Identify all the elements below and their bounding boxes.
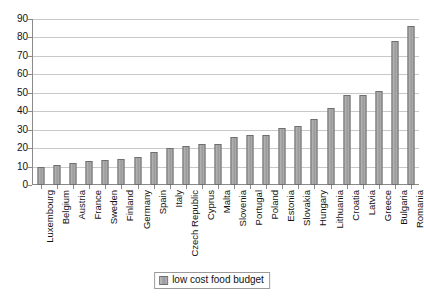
x-tick-label: Latvia — [367, 190, 377, 215]
x-tick-mark — [105, 185, 106, 189]
y-tick-label: 60 — [4, 69, 28, 79]
bar-slot — [210, 19, 226, 185]
bar[interactable] — [86, 161, 93, 185]
x-tick-label: Estonia — [286, 190, 296, 222]
x-tick-label: Hungary — [318, 190, 328, 226]
x-tick-mark — [186, 185, 187, 189]
x-tick-label: Belgium — [61, 190, 71, 224]
x-tick-label: Malta — [222, 190, 232, 213]
x-tick-mark — [154, 185, 155, 189]
x-tick-label: Greece — [383, 190, 393, 221]
bar[interactable] — [166, 148, 173, 185]
bar[interactable] — [343, 95, 350, 185]
x-tick-mark — [298, 185, 299, 189]
x-tick-mark — [314, 185, 315, 189]
x-tick-label: Lithuania — [335, 190, 345, 229]
x-tick-mark — [282, 185, 283, 189]
x-tick-mark — [218, 185, 219, 189]
bar[interactable] — [231, 137, 238, 185]
bar[interactable] — [70, 163, 77, 185]
x-tick-mark — [363, 185, 364, 189]
y-tick-label: 80 — [4, 32, 28, 42]
bars-layer — [33, 19, 419, 185]
bar-slot — [97, 19, 113, 185]
y-tick-label: 30 — [4, 125, 28, 135]
bar-slot — [387, 19, 403, 185]
bar-slot — [226, 19, 242, 185]
bar[interactable] — [118, 159, 125, 185]
x-tick-mark — [379, 185, 380, 189]
y-tick-label: 50 — [4, 88, 28, 98]
x-tick-mark — [73, 185, 74, 189]
x-tick-mark — [138, 185, 139, 189]
bar[interactable] — [407, 26, 414, 185]
bar-slot — [113, 19, 129, 185]
x-tick-label: Sweden — [109, 190, 119, 224]
x-tick-mark — [250, 185, 251, 189]
chart-legend: low cost food budget — [154, 272, 270, 289]
bar-slot — [146, 19, 162, 185]
y-tick-label: 90 — [4, 14, 28, 24]
x-tick-label: Cyprus — [206, 190, 216, 220]
bar[interactable] — [102, 160, 109, 185]
bar[interactable] — [150, 152, 157, 185]
y-tick-label: 20 — [4, 143, 28, 153]
y-tick-label: 10 — [4, 162, 28, 172]
bar[interactable] — [54, 165, 61, 185]
x-tick-label: Slovenia — [238, 190, 248, 226]
x-tick-label: Czech Republic — [190, 190, 200, 257]
y-tick-mark — [28, 185, 32, 186]
x-tick-label: France — [93, 190, 103, 220]
x-tick-label: Portugal — [254, 190, 264, 225]
x-tick-label: Spain — [158, 190, 168, 214]
x-tick-label: Slovakia — [302, 190, 312, 226]
x-tick-label: Croatia — [351, 190, 361, 221]
bar[interactable] — [391, 41, 398, 185]
bar-slot — [178, 19, 194, 185]
x-tick-label: Austria — [77, 190, 87, 220]
bar[interactable] — [359, 95, 366, 185]
legend-label: low cost food budget — [172, 275, 264, 285]
x-tick-label: Bulgaria — [399, 190, 409, 225]
x-tick-mark — [395, 185, 396, 189]
x-tick-mark — [347, 185, 348, 189]
bar[interactable] — [198, 144, 205, 185]
bar[interactable] — [279, 128, 286, 185]
x-tick-label: Poland — [270, 190, 280, 220]
bar-slot — [290, 19, 306, 185]
bar[interactable] — [311, 119, 318, 185]
bar-slot — [355, 19, 371, 185]
y-tick-label: 40 — [4, 106, 28, 116]
x-tick-mark — [234, 185, 235, 189]
x-tick-mark — [89, 185, 90, 189]
bar[interactable] — [247, 135, 254, 185]
x-tick-label: Romania — [415, 190, 424, 228]
bar-slot — [162, 19, 178, 185]
bar[interactable] — [214, 144, 221, 186]
bar[interactable] — [327, 108, 334, 185]
bar[interactable] — [182, 146, 189, 185]
x-tick-mark — [41, 185, 42, 189]
bar-slot — [194, 19, 210, 185]
bar-slot — [403, 19, 419, 185]
bar[interactable] — [375, 91, 382, 185]
x-axis-labels: LuxembourgBelgiumAustriaFranceSwedenFinl… — [33, 190, 419, 260]
bar[interactable] — [263, 135, 270, 185]
bar[interactable] — [134, 157, 141, 185]
x-tick-mark — [170, 185, 171, 189]
x-tick-label: Italy — [174, 190, 184, 207]
bar-slot — [49, 19, 65, 185]
x-tick-mark — [121, 185, 122, 189]
bar[interactable] — [295, 126, 302, 185]
bar[interactable] — [38, 167, 45, 185]
y-tick-label: 70 — [4, 51, 28, 61]
x-tick-label: Finland — [125, 190, 135, 221]
bar-slot — [306, 19, 322, 185]
bar-slot — [130, 19, 146, 185]
bar-chart: 0102030405060708090 LuxembourgBelgiumAus… — [0, 0, 424, 298]
bar-slot — [242, 19, 258, 185]
bar-slot — [81, 19, 97, 185]
legend-swatch-icon — [159, 276, 168, 285]
bar-slot — [339, 19, 355, 185]
bar-slot — [258, 19, 274, 185]
